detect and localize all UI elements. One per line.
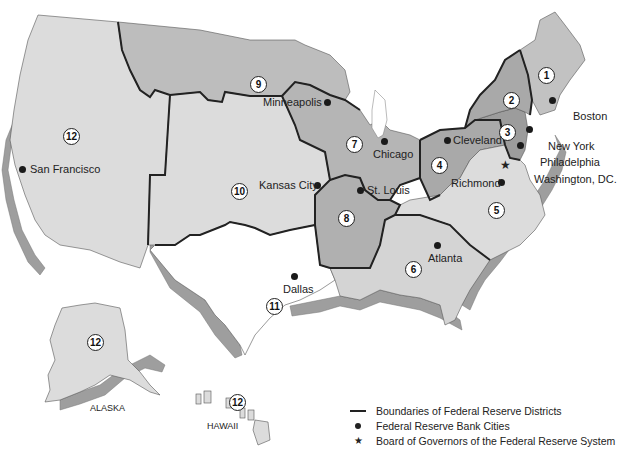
city-label-st-louis: St. Louis (367, 184, 410, 196)
city-label-chicago: Chicago (373, 148, 413, 160)
district-badge-12-hawaii: 12 (229, 394, 246, 411)
inset-label-hawaii: HAWAII (207, 420, 238, 432)
city-label-san-francisco: San Francisco (30, 163, 100, 175)
district-badge-6: 6 (405, 261, 422, 278)
district-badge-9: 9 (250, 76, 267, 93)
city-label-minneapolis: Minneapolis (263, 96, 322, 108)
district-badge-4: 4 (431, 157, 448, 174)
city-label-atlanta: Atlanta (428, 252, 462, 264)
city-dot-boston (549, 97, 556, 104)
city-dot-icon (355, 423, 361, 429)
district-badge-1: 1 (538, 67, 555, 84)
city-dot-philadelphia (517, 142, 524, 149)
map-legend: Boundaries of Federal Reserve Districts … (350, 403, 615, 448)
star-icon: ★ (354, 435, 363, 446)
city-label-boston: Boston (573, 110, 607, 122)
legend-item-board-of-governors: ★ Board of Governors of the Federal Rese… (350, 433, 615, 448)
city-label-cleveland: Cleveland (453, 134, 502, 146)
city-label-dallas: Dallas (283, 283, 314, 295)
boundary-line-icon (350, 410, 366, 412)
city-dot-atlanta (434, 242, 441, 249)
district-badge-2: 2 (503, 92, 520, 109)
district-badge-8: 8 (338, 210, 355, 227)
federal-reserve-map (0, 0, 618, 450)
legend-item-boundaries: Boundaries of Federal Reserve Districts (350, 403, 615, 418)
inset-label-alaska: ALASKA (90, 402, 125, 414)
district-badge-7: 7 (346, 136, 363, 153)
city-dot-san-francisco (19, 166, 26, 173)
city-label-washington-dc: Washington, DC. (534, 173, 617, 185)
city-dot-st-louis (357, 187, 364, 194)
city-dot-cleveland (444, 137, 451, 144)
city-dot-chicago (381, 138, 388, 145)
district-badge-10: 10 (231, 183, 248, 200)
city-label-philadelphia: Philadelphia (540, 156, 600, 168)
city-label-richmond: Richmond (451, 177, 501, 189)
district-badge-12-alaska: 12 (87, 334, 104, 351)
city-dot-dallas (291, 273, 298, 280)
city-label-kansas-city: Kansas City (259, 179, 318, 191)
city-dot-minneapolis (324, 99, 331, 106)
legend-item-bank-cities: Federal Reserve Bank Cities (350, 418, 615, 433)
district-badge-11: 11 (266, 298, 283, 315)
capital-star-icon: ★ (500, 159, 511, 171)
district-badge-12-mainland: 12 (63, 128, 80, 145)
district-badge-5: 5 (488, 202, 505, 219)
city-dot-new-york (526, 126, 533, 133)
city-label-new-york: New York (548, 140, 594, 152)
